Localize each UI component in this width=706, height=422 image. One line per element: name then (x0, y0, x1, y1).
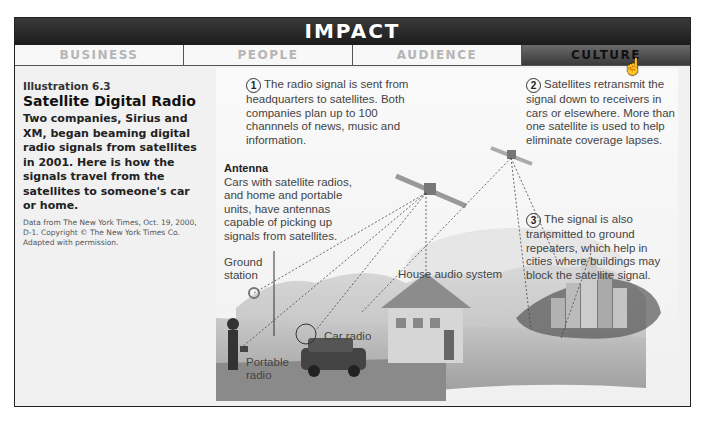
antenna-heading: Antenna (224, 162, 359, 176)
antenna-callout: Antenna Cars with satellite radios, and … (224, 162, 359, 243)
illustration-number: Illustration 6.3 (23, 80, 203, 92)
tab-culture[interactable]: CULTURE (522, 45, 690, 65)
callout-2: 2Satellites retransmit the signal down t… (526, 78, 676, 147)
illustration-title: Satellite Digital Radio (23, 93, 203, 109)
portable-radio-label: Portable radio (246, 356, 294, 382)
impact-banner: IMPACT (15, 18, 690, 45)
satellite-radio-illustration: 1The radio signal is sent from headquart… (216, 68, 678, 401)
callout-1: 1The radio signal is sent from headquart… (246, 78, 416, 147)
callout-1-text: The radio signal is sent from headquarte… (246, 78, 408, 146)
impact-panel: IMPACT BUSINESS PEOPLE AUDIENCE CULTURE … (14, 17, 691, 407)
car-radio-label: Car radio (324, 330, 371, 342)
tab-business[interactable]: BUSINESS (15, 45, 184, 65)
illustration-description: Two companies, Sirius and XM, began beam… (23, 112, 203, 214)
step-number-3: 3 (526, 213, 541, 228)
house-audio-label: House audio system (398, 268, 502, 280)
tab-bar: BUSINESS PEOPLE AUDIENCE CULTURE (15, 45, 690, 66)
callout-3-text: The signal is also transmitted to ground… (526, 213, 660, 281)
illustration-credit: Data from The New York Times, Oct. 19, 2… (23, 218, 203, 248)
callout-2-text: Satellites retransmit the signal down to… (526, 78, 675, 146)
satellite-icon-2 (491, 148, 532, 164)
tab-people[interactable]: PEOPLE (184, 45, 353, 65)
antenna-text: Cars with satellite radios, and home and… (224, 176, 359, 244)
ground-station-label: Ground station (224, 256, 274, 282)
satellite-icon-1 (396, 176, 466, 206)
step-number-1: 1 (246, 78, 261, 93)
illustration-caption: Illustration 6.3 Satellite Digital Radio… (23, 80, 203, 248)
tab-audience[interactable]: AUDIENCE (353, 45, 522, 65)
callout-3: 3The signal is also transmitted to groun… (526, 213, 676, 282)
step-number-2: 2 (526, 78, 541, 93)
hand-pointer-cursor-icon: ☝ (623, 57, 643, 76)
